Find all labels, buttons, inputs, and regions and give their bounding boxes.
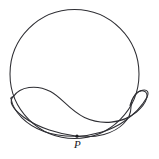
point-p-label: P: [74, 139, 81, 150]
figure-canvas: [0, 0, 159, 159]
geometry-figure: P: [0, 0, 159, 159]
figure-background: [0, 0, 159, 159]
